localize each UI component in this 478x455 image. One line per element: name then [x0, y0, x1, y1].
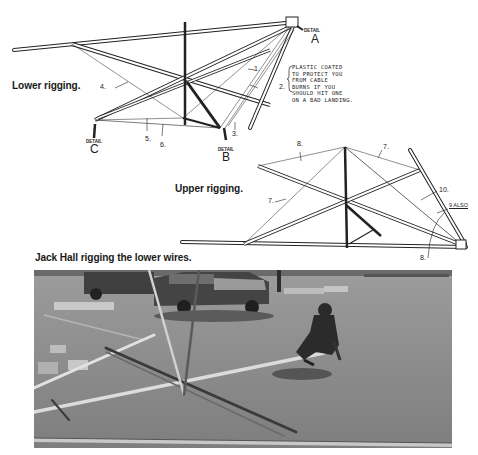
- photo-scene: [34, 270, 452, 448]
- upper-wire-label-8-top: 8.: [297, 140, 303, 147]
- upper-rigging-caption: Upper rigging.: [175, 182, 243, 194]
- pickup-truck: [154, 272, 274, 322]
- upper-wire-label-7-right: 7.: [383, 143, 389, 150]
- photo-jack-hall-rigging: [34, 270, 452, 448]
- upper-wire-label-10: 10.: [439, 186, 449, 193]
- upper-wire-label-7-left: 7.: [268, 197, 274, 204]
- upper-wire-label-8-bottom: 8.: [420, 254, 426, 261]
- photo-caption: Jack Hall rigging the lower wires.: [35, 251, 192, 263]
- upper-wire-label-9-also: 9 ALSO: [449, 202, 468, 208]
